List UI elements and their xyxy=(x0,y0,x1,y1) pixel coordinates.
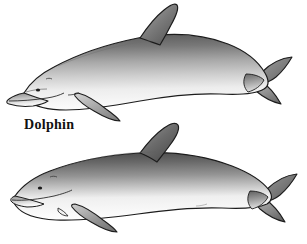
illustration-figure: Dolphin xyxy=(0,0,307,244)
porpoise-eye xyxy=(38,186,42,189)
dolphin-eye xyxy=(36,89,40,92)
dolphin-caption-label: Dolphin xyxy=(24,118,74,132)
